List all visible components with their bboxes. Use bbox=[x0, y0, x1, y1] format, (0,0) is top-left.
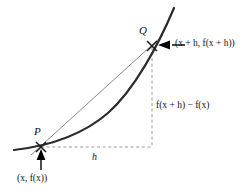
point-q-label: Q bbox=[139, 25, 147, 36]
secant-line bbox=[31, 35, 163, 155]
diagram-canvas bbox=[0, 0, 248, 195]
p-callout-arrow bbox=[37, 149, 46, 170]
q-coordinate-label: (x + h, f(x + h)) bbox=[175, 39, 235, 49]
secant-line-diagram: P Q h (x, f(x)) (x + h, f(x + h)) f(x + … bbox=[0, 0, 248, 195]
point-p-label: P bbox=[34, 126, 41, 137]
run-h-label: h bbox=[92, 152, 97, 162]
p-coordinate-label: (x, f(x)) bbox=[17, 174, 47, 184]
rise-label: f(x + h) − f(x) bbox=[156, 101, 209, 111]
